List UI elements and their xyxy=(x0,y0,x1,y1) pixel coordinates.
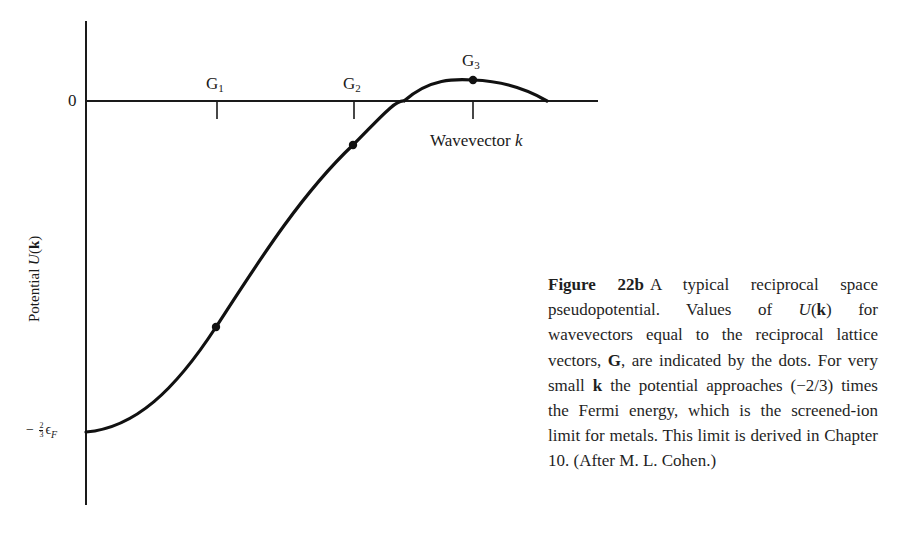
g-letter: G xyxy=(343,74,355,93)
x-tick-g2: G2 xyxy=(343,74,361,94)
y-tick-zero: 0 xyxy=(68,91,77,111)
dot-g3 xyxy=(469,76,477,84)
g1-subscript: 1 xyxy=(218,82,224,94)
x-axis-label-k: k xyxy=(515,131,523,150)
paren-open: ( xyxy=(26,249,42,254)
caption-text: G xyxy=(608,351,621,370)
fraction-two-thirds: 2 3 xyxy=(39,422,43,439)
figure-caption: Figure 22bA typical reciprocal space pse… xyxy=(548,272,878,474)
g3-subscript: 3 xyxy=(474,59,480,71)
x-axis-label-text: Wavevector xyxy=(430,131,515,150)
fraction-denominator: 3 xyxy=(39,431,43,439)
y-axis-label: Potential U(k) xyxy=(26,236,43,322)
caption-text: U xyxy=(799,300,811,319)
paren-close: ) xyxy=(26,236,42,241)
g-letter: G xyxy=(206,74,218,93)
caption-text: k xyxy=(817,300,826,319)
y-axis-label-u: U xyxy=(26,254,42,265)
x-tick-g3: G3 xyxy=(462,51,480,71)
y-axis-label-k: k xyxy=(26,241,42,249)
g-letter: G xyxy=(462,51,474,70)
minus-sign: − xyxy=(26,422,34,437)
dot-g2 xyxy=(349,141,357,149)
y-tick-minus-two-thirds-ef: − 2 3 ϵF xyxy=(26,422,57,440)
caption-text: k xyxy=(593,376,602,395)
dot-g1 xyxy=(212,323,220,331)
y-axis-label-text: Potential xyxy=(26,265,42,322)
x-tick-g1: G1 xyxy=(206,74,224,94)
epsilon-subscript: F xyxy=(51,429,57,440)
g2-subscript: 2 xyxy=(355,82,361,94)
x-axis-label: Wavevector k xyxy=(430,131,523,151)
figure-label: Figure 22b xyxy=(548,275,644,294)
